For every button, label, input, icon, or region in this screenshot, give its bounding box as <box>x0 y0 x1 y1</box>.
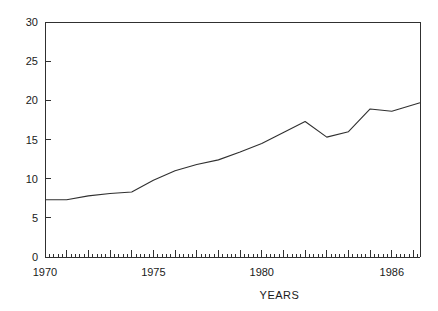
plot-frame <box>45 22 420 257</box>
line-chart: 0510152025301970197519801986YEARS <box>0 0 438 311</box>
x-tick-label: 1970 <box>33 266 57 278</box>
y-tick-label: 30 <box>26 16 38 28</box>
y-tick-label: 0 <box>32 251 38 263</box>
x-tick-label: 1980 <box>250 266 274 278</box>
y-tick-label: 20 <box>26 94 38 106</box>
y-tick-label: 10 <box>26 173 38 185</box>
x-axis-labels: 1970197519801986 <box>33 266 404 278</box>
chart-canvas: 0510152025301970197519801986YEARS <box>0 0 438 311</box>
y-axis: 051015202530 <box>26 16 51 263</box>
y-tick-label: 25 <box>26 55 38 67</box>
x-tick-label: 1986 <box>380 266 404 278</box>
data-series-line-0 <box>45 103 420 200</box>
x-tick-label: 1975 <box>141 266 165 278</box>
x-axis-title: YEARS <box>260 289 300 301</box>
x-minor-ticks <box>45 250 418 257</box>
y-tick-label: 15 <box>26 134 38 146</box>
y-tick-label: 5 <box>32 212 38 224</box>
